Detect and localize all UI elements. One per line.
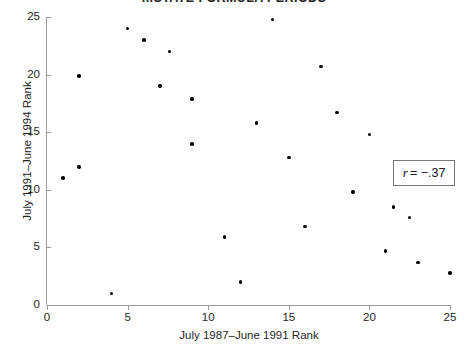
x-axis-title: July 1987–June 1991 Rank (47, 329, 451, 341)
data-point (190, 142, 194, 146)
data-point (158, 84, 162, 88)
plot-area (47, 17, 450, 305)
x-axis-line (47, 305, 451, 306)
correlation-annotation: r = −.37 (393, 160, 455, 186)
data-point (368, 133, 372, 137)
y-tick-label: 20 (0, 69, 40, 81)
x-tick-mark (128, 306, 129, 310)
y-axis-title: July 1991–June 1994 Rank (21, 36, 33, 266)
x-tick-label: 5 (108, 312, 148, 324)
correlation-value: = −.37 (410, 166, 445, 180)
x-tick-label: 0 (27, 312, 67, 324)
x-tick-label: 25 (430, 312, 468, 324)
data-point (303, 225, 307, 229)
x-tick-label: 20 (349, 312, 389, 324)
data-point (408, 216, 412, 220)
x-tick-mark (289, 306, 290, 310)
correlation-symbol: r (403, 165, 410, 181)
data-point (351, 190, 355, 194)
chart-title: ...STATE FORMULA PERIODS (0, 0, 468, 5)
data-point (61, 176, 65, 180)
data-point (287, 156, 291, 160)
data-point (239, 280, 243, 284)
x-tick-mark (47, 306, 48, 310)
x-tick-label: 15 (269, 312, 309, 324)
data-point (77, 74, 81, 78)
data-point (416, 261, 420, 265)
data-point (448, 271, 452, 275)
y-tick-label: 15 (0, 126, 40, 138)
data-point (168, 50, 172, 54)
data-point (110, 292, 114, 296)
data-point (335, 111, 339, 115)
data-point (392, 205, 396, 209)
y-tick-label: 10 (0, 184, 40, 196)
data-point (190, 97, 194, 101)
data-point (77, 165, 81, 169)
y-tick-label: 5 (0, 241, 40, 253)
scatter-plot-figure: ...STATE FORMULA PERIODS 0510152025 0510… (0, 0, 468, 349)
x-tick-mark (208, 306, 209, 310)
data-point (126, 27, 130, 31)
data-point (271, 18, 275, 22)
data-point (319, 65, 323, 69)
y-tick-label: 0 (0, 299, 40, 311)
data-point (223, 235, 227, 239)
data-point (255, 121, 259, 125)
x-tick-mark (450, 306, 451, 310)
data-point (384, 249, 388, 253)
data-point (142, 38, 146, 42)
x-tick-mark (369, 306, 370, 310)
y-tick-label: 25 (0, 11, 40, 23)
x-tick-label: 10 (188, 312, 228, 324)
